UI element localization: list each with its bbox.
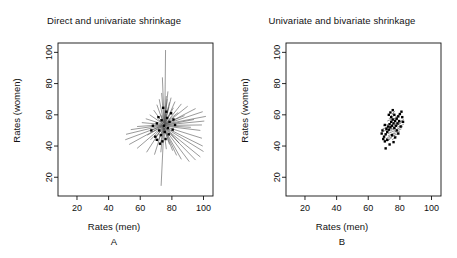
y-tick-label: 100 [272, 45, 282, 60]
data-point [393, 114, 395, 116]
plot-frame [286, 43, 441, 196]
y-tick-label: 80 [44, 79, 54, 89]
data-point [152, 125, 154, 127]
data-point [384, 133, 386, 135]
panel-b-xlabel: Rates (men) [228, 221, 456, 232]
data-point [388, 123, 390, 125]
data-point [150, 129, 152, 131]
data-point [388, 143, 390, 145]
data-point [392, 109, 394, 111]
x-tick-label: 40 [104, 203, 114, 213]
x-tick-label: 100 [196, 203, 211, 213]
data-point [158, 129, 160, 131]
data-point [394, 136, 396, 138]
panel-a: Direct and univariate shrinkage 20406080… [0, 0, 228, 258]
data-point [400, 110, 402, 112]
panel-b-plot: 2040608010020406080100 [228, 0, 456, 258]
data-point [396, 122, 398, 124]
data-point [385, 128, 387, 130]
data-point [161, 140, 163, 142]
data-point [390, 116, 392, 118]
x-tick-label: 100 [424, 203, 439, 213]
y-tick-label: 100 [44, 45, 54, 60]
data-point [391, 134, 393, 136]
y-tick-label: 60 [44, 110, 54, 120]
data-point [395, 125, 397, 127]
connector-segment [386, 136, 391, 139]
data-point [168, 121, 170, 123]
data-point [399, 125, 401, 127]
data-point [399, 113, 401, 115]
panel-a-letter: A [0, 236, 228, 247]
data-point [384, 140, 386, 142]
data-point [389, 111, 391, 113]
data-point [381, 129, 383, 131]
data-point [174, 124, 176, 126]
data-point [389, 126, 391, 128]
data-point [160, 119, 162, 121]
data-point [156, 122, 158, 124]
data-point [162, 107, 164, 109]
y-tick-label: 40 [44, 141, 54, 151]
x-tick-label: 80 [395, 203, 405, 213]
data-point [392, 122, 394, 124]
data-point [396, 118, 398, 120]
connector-segment [164, 128, 181, 159]
panel-b: Univariate and bivariate shrinkage 20406… [228, 0, 456, 258]
x-tick-label: 20 [300, 203, 310, 213]
panel-a-ylabel: Rates (women) [11, 51, 22, 171]
x-tick-label: 60 [135, 203, 145, 213]
data-point [160, 134, 162, 136]
data-point [393, 127, 395, 129]
x-tick-label: 20 [72, 203, 82, 213]
y-tick-label: 20 [44, 172, 54, 182]
y-tick-label: 60 [272, 110, 282, 120]
data-point [382, 138, 384, 140]
y-tick-label: 80 [272, 79, 282, 89]
panel-a-xlabel: Rates (men) [0, 221, 228, 232]
data-point [159, 142, 161, 144]
data-point [164, 138, 166, 140]
data-point [388, 128, 390, 130]
data-point [172, 118, 174, 120]
data-point [170, 112, 172, 114]
data-point [396, 129, 398, 131]
figure-container: Direct and univariate shrinkage 20406080… [0, 0, 457, 258]
data-point [383, 135, 385, 137]
data-point [156, 139, 158, 141]
data-point [392, 141, 394, 143]
x-tick-label: 40 [332, 203, 342, 213]
y-tick-label: 20 [272, 172, 282, 182]
data-point [398, 120, 400, 122]
data-point [163, 125, 165, 127]
data-point [171, 128, 173, 130]
data-point [380, 132, 382, 134]
data-point [392, 118, 394, 120]
data-point [164, 131, 166, 133]
data-point [387, 125, 389, 127]
data-point [401, 116, 403, 118]
data-point [397, 115, 399, 117]
data-point [394, 120, 396, 122]
data-point [384, 124, 386, 126]
data-point [386, 131, 388, 133]
data-point [384, 147, 386, 149]
x-tick-label: 80 [167, 203, 177, 213]
data-point [154, 135, 156, 137]
segment-group [125, 50, 206, 186]
panel-b-ylabel: Rates (women) [239, 51, 250, 171]
panel-a-plot: 2040608010020406080100 [0, 0, 228, 258]
data-point [165, 110, 167, 112]
data-point [157, 116, 159, 118]
data-point [397, 132, 399, 134]
data-point [388, 114, 390, 116]
y-tick-label: 40 [272, 141, 282, 151]
data-point [386, 139, 388, 141]
data-point [402, 121, 404, 123]
data-point [166, 117, 168, 119]
data-point [168, 133, 170, 135]
data-point [390, 121, 392, 123]
x-tick-label: 60 [363, 203, 373, 213]
panel-b-letter: B [228, 236, 456, 247]
data-point [167, 127, 169, 129]
